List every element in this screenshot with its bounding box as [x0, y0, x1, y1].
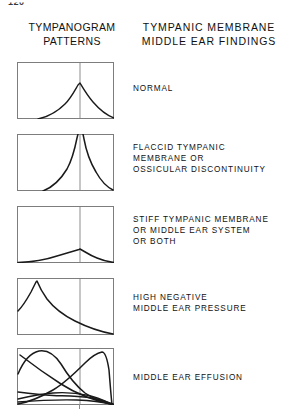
tympanogram-chart-stiff [17, 206, 114, 263]
finding-line: MIDDLE EAR EFFUSION [133, 372, 243, 383]
plot-frame [18, 135, 114, 191]
header-right-line-2: MIDDLE EAR FINDINGS [134, 34, 284, 48]
finding-line: MEMBRANE OR [133, 153, 266, 164]
finding-line: OR MIDDLE EAR SYSTEM [133, 225, 269, 236]
plot-frame [18, 279, 114, 335]
header-right-line-1: TYMPANIC MEMBRANE [134, 20, 284, 34]
plot-frame [18, 63, 114, 119]
finding-normal: NORMAL [133, 83, 173, 94]
tympanogram-chart-effusion [17, 348, 114, 405]
pressure-zero-tick [79, 404, 80, 409]
finding-line: FLACCID TYMPANIC [133, 142, 266, 153]
header-left-line-2: PATTERNS [6, 34, 138, 48]
findings-header: TYMPANIC MEMBRANE MIDDLE EAR FINDINGS [134, 20, 284, 48]
tympanogram-patterns-header: TYMPANOGRAM PATTERNS [6, 20, 138, 48]
page-number: 120 [8, 0, 25, 8]
finding-line: OSSICULAR DISCONTINUITY [133, 164, 266, 175]
tympanogram-plot-effusion [17, 348, 114, 405]
finding-line: STIFF TYMPANIC MEMBRANE [133, 214, 269, 225]
tympanogram-chart-flaccid [17, 134, 114, 191]
tympanogram-chart-normal [17, 62, 114, 119]
finding-line: OR BOTH [133, 236, 269, 247]
tympanogram-plot-flaccid [17, 134, 114, 191]
tympanogram-chart-negative-pressure [17, 278, 114, 335]
finding-flaccid: FLACCID TYMPANIC MEMBRANE OR OSSICULAR D… [133, 142, 266, 176]
tympanogram-plot-stiff [17, 206, 114, 263]
finding-stiff: STIFF TYMPANIC MEMBRANE OR MIDDLE EAR SY… [133, 214, 269, 248]
finding-line: NORMAL [133, 83, 173, 94]
finding-line: HIGH NEGATIVE [133, 292, 247, 303]
column-headers: TYMPANOGRAM PATTERNS TYMPANIC MEMBRANE M… [0, 20, 286, 54]
header-left-line-1: TYMPANOGRAM [6, 20, 138, 34]
finding-line: MIDDLE EAR PRESSURE [133, 303, 247, 314]
finding-negative-pressure: HIGH NEGATIVE MIDDLE EAR PRESSURE [133, 292, 247, 314]
finding-effusion: MIDDLE EAR EFFUSION [133, 372, 243, 383]
tympanogram-plot-normal [17, 62, 114, 119]
tympanogram-plot-negative-pressure [17, 278, 114, 335]
